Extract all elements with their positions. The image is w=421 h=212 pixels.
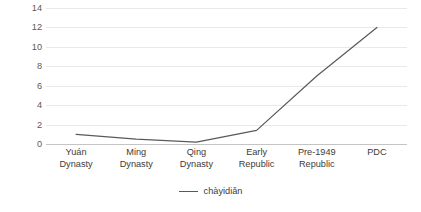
y-tick-label: 6 bbox=[18, 81, 42, 91]
x-axis-category-labels: YuánDynastyMingDynastyQingDynastyEarlyRe… bbox=[46, 147, 407, 177]
x-tick-label-line: Republic bbox=[227, 159, 287, 171]
x-tick-label-line: Pre-1949 bbox=[287, 147, 347, 159]
x-tick-label-line: PDC bbox=[347, 147, 407, 159]
legend: chàyidiǎn bbox=[0, 186, 421, 197]
legend-line-swatch bbox=[179, 191, 198, 193]
y-tick-label: 2 bbox=[18, 120, 42, 130]
axis-baseline bbox=[46, 144, 407, 145]
x-tick-label: Pre-1949Republic bbox=[287, 147, 347, 177]
x-tick-label-line: Early bbox=[227, 147, 287, 159]
series-layer bbox=[46, 8, 407, 144]
y-tick-label: 8 bbox=[18, 61, 42, 71]
x-tick-label-line: Ming bbox=[106, 147, 166, 159]
line-chart: Frequency peronemill.characters 02468101… bbox=[0, 0, 421, 212]
x-tick-label: YuánDynasty bbox=[46, 147, 106, 177]
x-tick-label: PDC bbox=[347, 147, 407, 177]
y-axis-tick-labels: 02468101214 bbox=[12, 0, 42, 212]
legend-label-chayidian: chàyidiǎn bbox=[204, 186, 243, 197]
x-tick-label: EarlyRepublic bbox=[227, 147, 287, 177]
x-tick-label-line: Yuán bbox=[46, 147, 106, 159]
y-tick-label: 10 bbox=[18, 42, 42, 52]
y-tick-label: 14 bbox=[18, 3, 42, 13]
x-tick-label-line: Dynasty bbox=[166, 159, 226, 171]
plot-area bbox=[46, 8, 407, 144]
x-tick-label-line: Qing bbox=[166, 147, 226, 159]
x-tick-label-line: Republic bbox=[287, 159, 347, 171]
x-tick-label: MingDynasty bbox=[106, 147, 166, 177]
x-tick-label: QingDynasty bbox=[166, 147, 226, 177]
series-line-chayidian bbox=[76, 27, 377, 142]
y-tick-label: 0 bbox=[18, 139, 42, 149]
y-tick-label: 12 bbox=[18, 22, 42, 32]
x-tick-label-line: Dynasty bbox=[106, 159, 166, 171]
y-tick-label: 4 bbox=[18, 100, 42, 110]
x-tick-label-line: Dynasty bbox=[46, 159, 106, 171]
